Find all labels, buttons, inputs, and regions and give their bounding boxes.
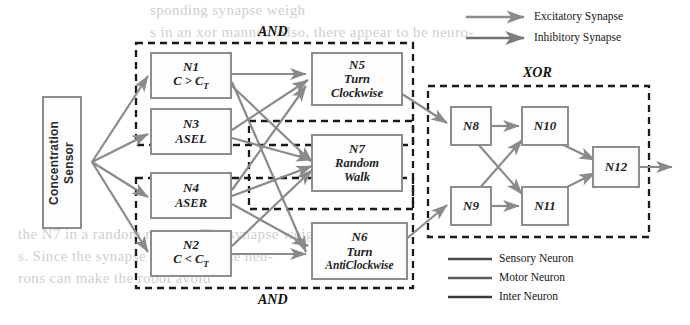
legend-motor-label: Motor Neuron xyxy=(499,271,565,283)
neuron-n6-label1: Turn xyxy=(347,245,373,259)
neuron-n5-label1: Turn xyxy=(344,72,370,86)
concentration-sensor-box[interactable]: ConcentrationSensor xyxy=(42,96,82,229)
legend-inhibitory-label: Inhibitory Synapse xyxy=(534,31,621,43)
group-label-xor: XOR xyxy=(523,65,552,81)
legend-excitatory-label: Excitatory Synapse xyxy=(534,10,623,22)
diagram-canvas: sponding synapse weigh s in an xor manne… xyxy=(0,0,690,325)
neuron-n4[interactable]: N4 ASER xyxy=(150,172,232,219)
neuron-n7-label2: Walk xyxy=(344,170,370,184)
group-label-and-bottom: AND xyxy=(258,292,288,308)
logic-to-motor-links xyxy=(232,74,312,254)
neuron-n3-label: ASEL xyxy=(175,132,206,146)
neuron-n12[interactable]: N12 xyxy=(592,146,640,188)
neuron-n8-id: N8 xyxy=(463,119,479,134)
neuron-n3-id: N3 xyxy=(183,117,199,132)
neuron-n12-id: N12 xyxy=(605,160,627,175)
neuron-n8[interactable]: N8 xyxy=(450,106,492,146)
neuron-n6-label2: AntiClockwise xyxy=(325,259,393,272)
neuron-n11[interactable]: N11 xyxy=(521,186,569,226)
neuron-n7-label1: Random xyxy=(335,156,379,170)
legend-sensory-label: Sensory Neuron xyxy=(499,252,573,264)
neuron-n7-id: N7 xyxy=(349,142,365,157)
neuron-n6[interactable]: N6 Turn AntiClockwise xyxy=(311,222,408,280)
neuron-n2[interactable]: N2 C < CT xyxy=(150,230,232,277)
neuron-n5-label2: Clockwise xyxy=(331,86,383,100)
concentration-sensor-label: ConcentrationSensor xyxy=(47,121,77,205)
neuron-n3[interactable]: N3 ASEL xyxy=(150,108,232,155)
neuron-n7[interactable]: N7 Random Walk xyxy=(311,134,403,192)
neuron-n5[interactable]: N5 Turn Clockwise xyxy=(311,52,403,106)
neuron-n2-id: N2 xyxy=(183,238,199,253)
neuron-n4-id: N4 xyxy=(183,181,199,196)
neuron-n6-id: N6 xyxy=(352,230,368,245)
neuron-n1-id: N1 xyxy=(183,60,199,75)
neuron-n1[interactable]: N1 C > CT xyxy=(150,52,232,99)
group-label-and-top: AND xyxy=(258,24,288,40)
neuron-n9-id: N9 xyxy=(463,199,479,214)
sensor-fanout xyxy=(92,76,148,252)
neuron-n1-label: C > CT xyxy=(173,74,209,91)
neuron-n11-id: N11 xyxy=(534,199,556,214)
neuron-n10[interactable]: N10 xyxy=(521,106,569,146)
neuron-n9[interactable]: N9 xyxy=(450,186,492,226)
neuron-n10-id: N10 xyxy=(534,119,556,134)
neuron-n5-id: N5 xyxy=(349,58,365,73)
neuron-n2-label: C < CT xyxy=(173,252,209,269)
neuron-n4-label: ASER xyxy=(175,196,207,210)
legend-inter-label: Inter Neuron xyxy=(499,290,558,302)
